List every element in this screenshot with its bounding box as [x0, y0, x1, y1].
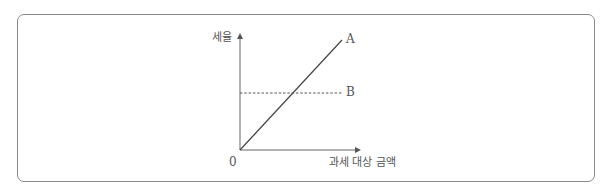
x-axis-label: 과세 대상 금액 [329, 157, 396, 168]
line-a [240, 40, 342, 150]
line-b-label: B [346, 86, 355, 98]
tax-rate-diagram [0, 0, 606, 193]
line-a-label: A [346, 33, 355, 45]
y-axis-label: 세율 [212, 32, 232, 43]
origin-label: 0 [229, 156, 237, 168]
